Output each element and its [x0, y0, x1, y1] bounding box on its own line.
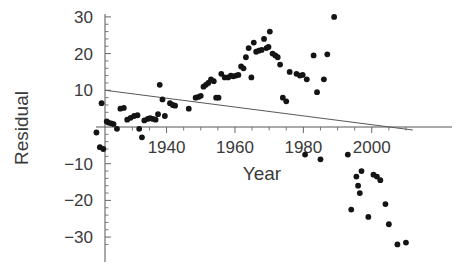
x-axis-tick-label: 2000 — [353, 138, 391, 157]
data-point — [365, 214, 371, 220]
data-point — [248, 75, 254, 81]
residual-vs-year-scatter-chart: 1940196019802000302010−10−20−30ResidualY… — [0, 0, 457, 268]
data-point — [153, 117, 159, 123]
data-point — [377, 177, 383, 183]
data-point — [172, 103, 178, 109]
data-point — [359, 168, 365, 174]
y-axis-title: Residual — [11, 91, 32, 165]
data-point — [353, 174, 359, 180]
data-point — [357, 190, 363, 196]
data-point — [211, 78, 217, 84]
data-point — [186, 106, 192, 112]
data-point — [266, 44, 272, 50]
data-point — [355, 183, 361, 189]
data-point — [302, 152, 308, 158]
y-axis-tick-label: −20 — [64, 191, 93, 210]
data-point — [345, 152, 351, 158]
data-point — [100, 146, 106, 152]
data-point — [155, 111, 161, 117]
data-point — [383, 201, 389, 207]
data-point — [241, 65, 247, 71]
data-point — [251, 40, 257, 46]
data-point — [111, 121, 117, 127]
y-axis-tick-label: −10 — [64, 155, 93, 174]
data-point — [136, 126, 142, 132]
data-point — [314, 89, 320, 95]
y-axis-tick-label: 10 — [74, 81, 93, 100]
data-point — [386, 221, 392, 227]
data-point — [246, 45, 252, 51]
data-point — [157, 82, 163, 88]
x-axis-tick-label: 1960 — [216, 138, 254, 157]
data-point — [348, 207, 354, 213]
data-point — [395, 242, 401, 248]
data-point — [287, 69, 293, 75]
data-point — [331, 14, 337, 20]
data-point — [235, 72, 241, 78]
data-point — [300, 72, 306, 78]
data-point — [311, 53, 317, 59]
data-point — [261, 36, 267, 42]
data-point — [267, 29, 273, 35]
y-axis-tick-label: 20 — [74, 45, 93, 64]
data-point — [198, 93, 204, 99]
data-point — [243, 54, 249, 60]
data-point — [160, 97, 166, 103]
data-point — [277, 62, 283, 68]
y-axis-tick-label: −30 — [64, 228, 93, 247]
data-point — [321, 76, 327, 82]
data-point — [304, 76, 310, 82]
data-point — [324, 51, 330, 57]
data-point — [135, 112, 141, 118]
data-point — [275, 54, 281, 60]
data-point — [403, 240, 409, 246]
data-point — [162, 113, 168, 119]
y-axis-tick-label: 30 — [74, 8, 93, 27]
x-axis-title: Year — [243, 163, 282, 184]
data-point — [216, 95, 222, 101]
data-point — [94, 130, 100, 136]
data-point — [139, 134, 145, 140]
data-point — [121, 105, 127, 111]
data-point — [318, 156, 324, 162]
data-point-group — [94, 14, 409, 247]
data-point — [114, 126, 120, 132]
data-point — [99, 100, 105, 106]
trend-line — [105, 90, 413, 130]
x-axis-tick-label: 1940 — [148, 138, 186, 157]
data-point — [283, 98, 289, 104]
